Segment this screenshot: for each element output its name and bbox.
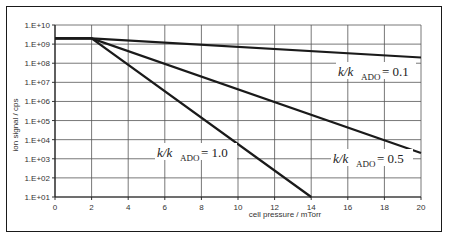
svg-text:k/k: k/k xyxy=(338,64,353,79)
x-tick-label: 2 xyxy=(89,203,94,212)
svg-text:k/k: k/k xyxy=(333,151,348,166)
y-tick-label: 1.E+04 xyxy=(24,136,50,145)
annotation-k-0.1: k/k ADO = 0.1 xyxy=(336,62,416,82)
y-axis-ticks: 1.E+011.E+021.E+031.E+041.E+051.E+061.E+… xyxy=(24,21,50,202)
grid xyxy=(52,25,421,200)
y-axis-label: ion signal / cps xyxy=(11,99,20,152)
annotation-k-0.5: k/k ADO = 0.5 xyxy=(331,149,413,169)
annotation-k-1.0: k/k ADO = 1.0 xyxy=(155,143,237,163)
x-tick-label: 18 xyxy=(380,203,389,212)
y-tick-label: 1.E+10 xyxy=(24,21,50,30)
svg-text:ADO: ADO xyxy=(356,159,376,169)
x-tick-label: 8 xyxy=(199,203,204,212)
x-tick-label: 4 xyxy=(126,203,131,212)
x-tick-label: 16 xyxy=(343,203,352,212)
x-axis-ticks: 02468101214161820 xyxy=(53,203,426,212)
svg-text:k/k: k/k xyxy=(157,145,172,160)
y-tick-label: 1.E+02 xyxy=(24,174,50,183)
x-tick-label: 6 xyxy=(163,203,168,212)
x-axis-label: cell pressure / mTorr xyxy=(249,210,322,219)
series-line xyxy=(55,38,311,197)
x-tick-label: 20 xyxy=(417,203,426,212)
y-tick-label: 1.E+06 xyxy=(24,97,50,106)
svg-text:= 1.0: = 1.0 xyxy=(201,145,228,160)
y-tick-label: 1.E+07 xyxy=(24,78,50,87)
y-tick-label: 1.E+09 xyxy=(24,40,50,49)
y-tick-label: 1.E+08 xyxy=(24,59,50,68)
svg-text:ADO: ADO xyxy=(361,72,381,82)
y-tick-label: 1.E+05 xyxy=(24,117,50,126)
y-tick-label: 1.E+03 xyxy=(24,155,50,164)
svg-text:= 0.1: = 0.1 xyxy=(382,64,409,79)
y-tick-label: 1.E+01 xyxy=(24,193,50,202)
x-tick-label: 0 xyxy=(53,203,58,212)
x-tick-label: 10 xyxy=(234,203,243,212)
svg-text:= 0.5: = 0.5 xyxy=(377,151,404,166)
svg-text:ADO: ADO xyxy=(180,153,200,163)
line-chart: 1.E+011.E+021.E+031.E+041.E+051.E+061.E+… xyxy=(0,0,450,241)
